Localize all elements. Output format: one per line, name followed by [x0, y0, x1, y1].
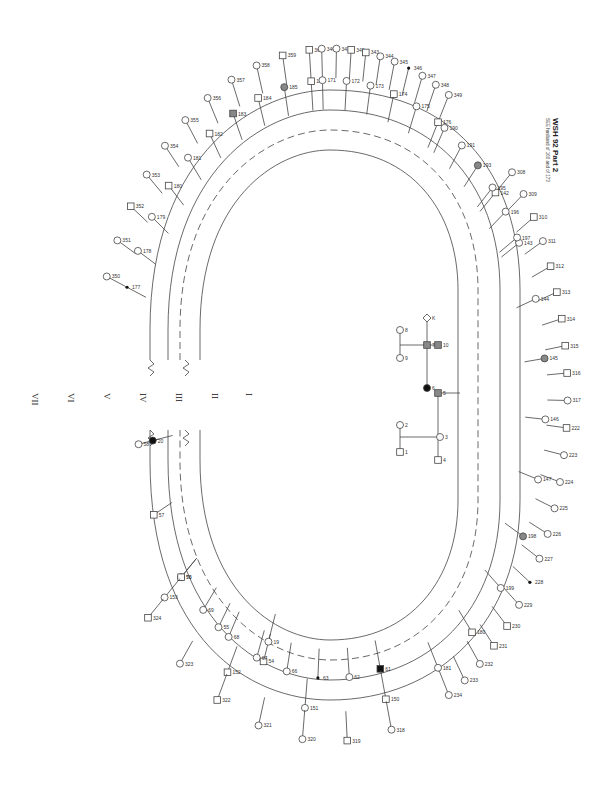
individual-359[interactable]: 359: [279, 52, 296, 59]
individual-230[interactable]: 230: [504, 623, 521, 630]
individual-323[interactable]: 323: [176, 660, 193, 667]
individual-153[interactable]: 153: [161, 594, 178, 601]
individual-151[interactable]: 151: [301, 704, 318, 711]
individual-231[interactable]: 231: [491, 642, 508, 649]
individual-4[interactable]: 4: [435, 457, 446, 464]
individual-322[interactable]: 322: [214, 697, 231, 704]
individual-190[interactable]: 190: [441, 124, 458, 131]
individual-id: 359: [288, 52, 297, 58]
individual-224[interactable]: 224: [556, 479, 573, 486]
individual-227[interactable]: 227: [536, 555, 553, 562]
individual-354[interactable]: 354: [161, 142, 178, 149]
individual-1[interactable]: 1: [397, 449, 408, 456]
individual-234[interactable]: 234: [445, 692, 462, 699]
individual-345[interactable]: 345: [391, 58, 408, 65]
individual-20[interactable]: 20: [149, 437, 163, 444]
individual-175[interactable]: 175: [413, 103, 430, 110]
individual-356[interactable]: 356: [204, 94, 221, 101]
individual-195[interactable]: 195: [489, 184, 506, 191]
individual-347[interactable]: 347: [419, 72, 436, 79]
title-block: WSH 92 Part 2 SEE husband of 160 and of …: [545, 118, 560, 182]
individual-233[interactable]: 233: [461, 677, 478, 684]
individual-id: 171: [327, 77, 336, 83]
individual-311[interactable]: 311: [539, 238, 556, 245]
individual-226[interactable]: 226: [544, 530, 561, 537]
individual-173[interactable]: 173: [367, 82, 384, 89]
individual-178[interactable]: 178: [134, 247, 151, 254]
individual-172[interactable]: 172: [343, 77, 360, 84]
individual-7[interactable]: 7: [424, 342, 435, 349]
individual-348[interactable]: 348: [432, 81, 449, 88]
individual-181[interactable]: 181: [184, 154, 201, 161]
individual-182[interactable]: 182: [206, 130, 223, 137]
individual-180[interactable]: 180: [165, 182, 182, 189]
individual-199[interactable]: 199: [497, 584, 514, 591]
individual-355[interactable]: 355: [182, 117, 199, 124]
individual-317[interactable]: 317: [564, 397, 581, 404]
individual-147[interactable]: 147: [535, 476, 552, 483]
individual-19[interactable]: 19: [265, 638, 279, 645]
individual-id: 197: [522, 235, 531, 241]
individual-229[interactable]: 229: [516, 601, 533, 608]
individual-180[interactable]: 180: [469, 629, 486, 636]
individual-185[interactable]: 185: [281, 84, 298, 91]
individual-61[interactable]: 61: [377, 666, 391, 673]
individual-319[interactable]: 319: [344, 737, 361, 744]
individual-223[interactable]: 223: [560, 452, 577, 459]
individual-181[interactable]: 181: [435, 664, 452, 671]
individual-310[interactable]: 310: [531, 214, 548, 221]
individual-58[interactable]: 58: [135, 441, 149, 448]
individual-346[interactable]: 346: [407, 65, 422, 71]
individual-146[interactable]: 146: [542, 416, 559, 423]
individual-352[interactable]: 352: [127, 203, 144, 210]
individual-358[interactable]: 358: [253, 62, 270, 69]
individual-320[interactable]: 320: [299, 736, 316, 743]
individual-315[interactable]: 315: [562, 342, 579, 349]
individual-321[interactable]: 321: [255, 722, 272, 729]
individual-225[interactable]: 225: [551, 505, 568, 512]
individual-316[interactable]: 316: [564, 370, 581, 377]
individual-3[interactable]: 3: [437, 434, 449, 441]
individual-193[interactable]: 193: [474, 162, 491, 169]
individual-309[interactable]: 309: [520, 191, 537, 198]
individual-150[interactable]: 150: [383, 696, 400, 703]
individual-312[interactable]: 312: [547, 263, 564, 270]
individual-10[interactable]: 10: [435, 342, 449, 349]
individual-144[interactable]: 144: [532, 295, 549, 302]
individual-228[interactable]: 228: [528, 579, 543, 585]
individual-197[interactable]: 197: [514, 234, 531, 241]
individual-5[interactable]: 5: [435, 390, 446, 397]
individual-314[interactable]: 314: [558, 315, 575, 322]
individual-196[interactable]: 196: [502, 208, 519, 215]
individual-177[interactable]: 177: [125, 284, 140, 290]
individual-318[interactable]: 318: [388, 726, 405, 733]
individual-351[interactable]: 351: [114, 237, 131, 244]
individual-184[interactable]: 184: [255, 95, 272, 102]
individual-8[interactable]: 8: [397, 327, 409, 334]
individual-344[interactable]: 344: [377, 53, 394, 60]
individual-313[interactable]: 313: [554, 289, 571, 296]
individual-357[interactable]: 357: [228, 76, 245, 83]
individual-222[interactable]: 222: [563, 425, 580, 432]
individual-9[interactable]: 9: [397, 355, 409, 362]
individual-232[interactable]: 232: [476, 660, 493, 667]
individual-176[interactable]: 176: [435, 119, 452, 126]
individual-K[interactable]: K: [423, 314, 436, 322]
individual-324[interactable]: 324: [145, 614, 162, 621]
individual-198[interactable]: 198: [520, 533, 537, 540]
individual-341[interactable]: 341: [333, 45, 350, 52]
individual-69[interactable]: 69: [200, 606, 214, 613]
individual-62[interactable]: 62: [346, 674, 360, 681]
individual-179[interactable]: 179: [148, 213, 165, 220]
individual-350[interactable]: 350: [103, 273, 120, 280]
individual-174[interactable]: 174: [391, 91, 408, 98]
individual-191[interactable]: 191: [458, 142, 475, 149]
individual-349[interactable]: 349: [445, 91, 462, 98]
individual-183[interactable]: 183: [230, 110, 247, 117]
individual-6[interactable]: 6: [424, 385, 436, 392]
individual-308[interactable]: 308: [509, 169, 526, 176]
individual-145[interactable]: 145: [541, 355, 558, 362]
individual-2[interactable]: 2: [397, 422, 409, 429]
individual-171[interactable]: 171: [319, 77, 336, 84]
individual-353[interactable]: 353: [143, 171, 160, 178]
